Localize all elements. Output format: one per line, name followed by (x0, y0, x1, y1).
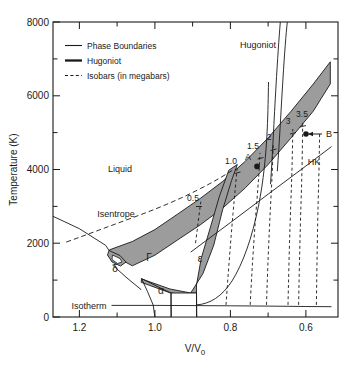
label-epsilon-phase: ε (198, 253, 203, 264)
y-axis-title-group: Temperature (K) (8, 133, 19, 205)
y-label-8000: 8000 (27, 17, 50, 28)
x-axis-title-subscript: 0 (201, 348, 206, 357)
isobar-label-1.0: 1.0 (225, 156, 237, 166)
legend-label-phase-boundaries: Phase Boundaries (87, 41, 156, 51)
x-label-0.8: 0.8 (223, 322, 237, 333)
legend-label-hugoniot: Hugoniot (87, 56, 122, 66)
y-label-0: 0 (43, 312, 49, 323)
y-label-6000: 6000 (27, 90, 50, 101)
x-label-1.0: 1.0 (148, 322, 162, 333)
isobar-label-2: 2 (267, 132, 272, 142)
x-label-1.2: 1.2 (72, 322, 86, 333)
gamma-bottom-box (171, 293, 197, 317)
x-label-0.6: 0.6 (299, 322, 313, 333)
isobar-label-3: 3 (286, 116, 291, 126)
legend-label-isobars: Isobars (in megabars) (87, 71, 170, 81)
label-hk: HK (308, 157, 321, 167)
chart-svg: 0 2000 4000 6000 8000 Temperature (K) 1.… (0, 0, 359, 368)
point-label-A: A (245, 152, 251, 162)
x-axis-title-main: V/V (185, 343, 201, 354)
label-hugoniot-region: Hugoniot (240, 40, 277, 50)
label-isentrope: Isentrope (97, 209, 135, 219)
data-point-B (303, 131, 309, 137)
y-axis-title: Temperature (K) (8, 133, 19, 205)
label-isotherm: Isotherm (71, 301, 106, 311)
data-point-A (254, 164, 260, 170)
isobar-label-0.5: 0.5 (187, 193, 199, 203)
label-liquid: Liquid (108, 164, 132, 174)
isobar-label-1.5: 1.5 (247, 141, 259, 151)
point-label-B: B (326, 129, 332, 139)
y-label-2000: 2000 (27, 238, 50, 249)
isobar-label-3.5: 3.5 (296, 109, 308, 119)
y-label-4000: 4000 (27, 164, 50, 175)
label-delta-phase: δ (112, 263, 118, 274)
label-gamma-phase: Γ (146, 252, 152, 263)
phase-diagram-figure: 0 2000 4000 6000 8000 Temperature (K) 1.… (0, 0, 359, 368)
label-alpha-phase: α (158, 285, 164, 296)
